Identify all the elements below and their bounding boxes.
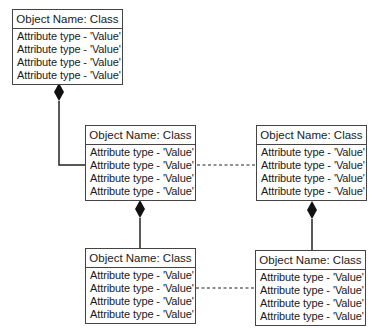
composition-connector-obj3-obj5 [307, 201, 317, 251]
object-attribute: Attribute type - 'Value' [90, 185, 195, 198]
object-box-2: Object Name: Class Attribute type - 'Val… [85, 125, 196, 201]
object-box-4: Object Name: Class Attribute type - 'Val… [85, 248, 196, 324]
object-attribute: Attribute type - 'Value' [260, 284, 365, 297]
object-attribute: Attribute type - 'Value' [261, 146, 366, 159]
object-attribute: Attribute type - 'Value' [17, 43, 122, 56]
composition-diamond-icon [135, 200, 145, 218]
object-attributes: Attribute type - 'Value' Attribute type … [86, 268, 195, 323]
object-attribute: Attribute type - 'Value' [260, 271, 365, 284]
object-attribute: Attribute type - 'Value' [90, 308, 195, 321]
object-attribute: Attribute type - 'Value' [261, 159, 366, 172]
object-attribute: Attribute type - 'Value' [17, 56, 122, 69]
object-header: Object Name: Class [86, 126, 195, 145]
object-attribute: Attribute type - 'Value' [90, 172, 195, 185]
composition-diamond-icon [307, 201, 317, 219]
object-attributes: Attribute type - 'Value' Attribute type … [86, 145, 195, 200]
object-header: Object Name: Class [256, 251, 365, 270]
composition-connector-obj1-obj2 [54, 83, 85, 165]
object-header: Object Name: Class [13, 10, 122, 29]
object-header: Object Name: Class [257, 126, 366, 145]
object-box-1: Object Name: Class Attribute type - 'Val… [12, 9, 123, 85]
object-attribute: Attribute type - 'Value' [260, 297, 365, 310]
object-attribute: Attribute type - 'Value' [260, 310, 365, 323]
object-attribute: Attribute type - 'Value' [90, 159, 195, 172]
object-attribute: Attribute type - 'Value' [90, 269, 195, 282]
object-box-5: Object Name: Class Attribute type - 'Val… [255, 250, 366, 326]
composition-diamond-icon [54, 83, 64, 101]
object-attribute: Attribute type - 'Value' [261, 185, 366, 198]
object-attribute: Attribute type - 'Value' [17, 30, 122, 43]
object-attribute: Attribute type - 'Value' [90, 282, 195, 295]
object-attributes: Attribute type - 'Value' Attribute type … [256, 270, 365, 325]
object-attribute: Attribute type - 'Value' [261, 172, 366, 185]
object-attribute: Attribute type - 'Value' [17, 69, 122, 82]
object-box-3: Object Name: Class Attribute type - 'Val… [256, 125, 367, 201]
object-header: Object Name: Class [86, 249, 195, 268]
composition-connector-obj2-obj4 [135, 200, 145, 249]
object-attributes: Attribute type - 'Value' Attribute type … [13, 29, 122, 84]
object-attribute: Attribute type - 'Value' [90, 146, 195, 159]
object-attributes: Attribute type - 'Value' Attribute type … [257, 145, 366, 200]
object-attribute: Attribute type - 'Value' [90, 295, 195, 308]
